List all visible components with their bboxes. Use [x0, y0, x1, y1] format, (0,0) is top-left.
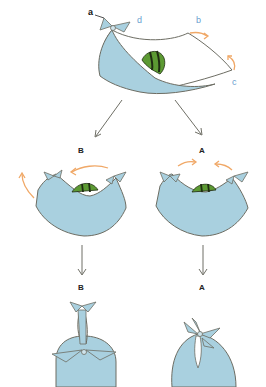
corner-label-b: b	[196, 16, 201, 25]
result-label-B: B	[78, 283, 84, 292]
branch-arrows	[95, 100, 202, 137]
result-label-A: A	[199, 283, 205, 292]
corner-label-d: d	[137, 16, 142, 25]
branch-label-A: A	[199, 146, 205, 155]
corner-label-a: a	[88, 8, 93, 17]
diagram-drawing	[0, 0, 266, 387]
corner-label-c: c	[232, 78, 237, 87]
middle-cloth-B	[19, 166, 126, 236]
branch-label-B: B	[78, 146, 84, 155]
bottom-bag-B	[52, 302, 116, 387]
top-open-cloth	[95, 15, 235, 94]
middle-cloth-A	[156, 159, 248, 236]
bottom-bundle-A	[172, 318, 236, 387]
down-arrows	[78, 245, 207, 275]
furoshiki-diagram: a d b c B A B A	[0, 0, 266, 387]
